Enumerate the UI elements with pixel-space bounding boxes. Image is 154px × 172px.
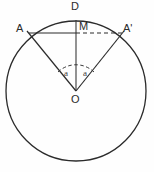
- radius-line-o-aprime: [76, 31, 124, 91]
- radius-line-o-a: [27, 31, 76, 91]
- angle-label-left: a: [64, 69, 68, 78]
- point-label-m: M: [79, 21, 88, 32]
- point-label-a: A: [16, 23, 23, 34]
- point-label-d: D: [71, 1, 79, 12]
- geometry-figure: D M A A' O a a: [0, 0, 154, 172]
- point-label-a-prime: A': [123, 23, 132, 34]
- angle-label-right: a: [83, 69, 87, 78]
- point-label-o: O: [71, 94, 80, 105]
